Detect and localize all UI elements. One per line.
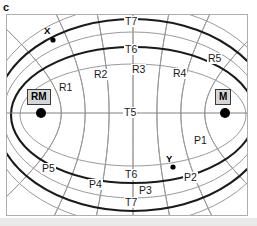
figure-page: c T7T6T6T7T5R1R2R3R4R5P1P2P3P4P5XYRMM	[0, 0, 257, 226]
hyperbola-label-p4: P4	[88, 179, 103, 190]
hyperbola-label-r3: R3	[131, 64, 146, 75]
hyperbola-label-r2: R2	[93, 69, 108, 80]
focus-dot-rm	[36, 108, 46, 118]
hyperbola-label-p3: P3	[138, 185, 153, 196]
axis-label-t5: T5	[123, 107, 137, 118]
intersection-dot-x	[50, 37, 55, 42]
panel-letter: c	[3, 0, 9, 14]
marker-label-x: X	[44, 26, 50, 36]
ellipse-label-t7-0: T7	[124, 16, 138, 27]
ellipse-label-t6-1: T6	[124, 44, 138, 55]
hyperbola-p2-branch	[7, 15, 61, 215]
hyperbola-r1-branch	[7, 15, 61, 215]
hyperbola-label-r1: R1	[58, 82, 73, 93]
hyperbola-label-p1: P1	[193, 135, 208, 146]
ellipse-label-t6-2: T6	[124, 169, 138, 180]
hyperbola-label-p5: P5	[41, 163, 56, 174]
hyperbola-p1-branch	[181, 15, 247, 215]
node-box-m: M	[215, 89, 231, 105]
page-bottom-strip	[0, 218, 257, 226]
node-box-rm: RM	[27, 89, 51, 105]
focus-dot-m	[220, 108, 230, 118]
hyperbola-label-r5: R5	[207, 53, 222, 64]
intersection-dot-y	[170, 164, 175, 169]
hyperbola-label-p2: P2	[183, 172, 198, 183]
hyperbola-label-r4: R4	[172, 68, 187, 79]
ellipse-label-t7-3: T7	[124, 197, 138, 208]
hyperbola-r2-branch	[181, 15, 247, 215]
figure-frame: T7T6T6T7T5R1R2R3R4R5P1P2P3P4P5XYRMM	[6, 14, 248, 216]
marker-label-y: Y	[166, 154, 172, 164]
